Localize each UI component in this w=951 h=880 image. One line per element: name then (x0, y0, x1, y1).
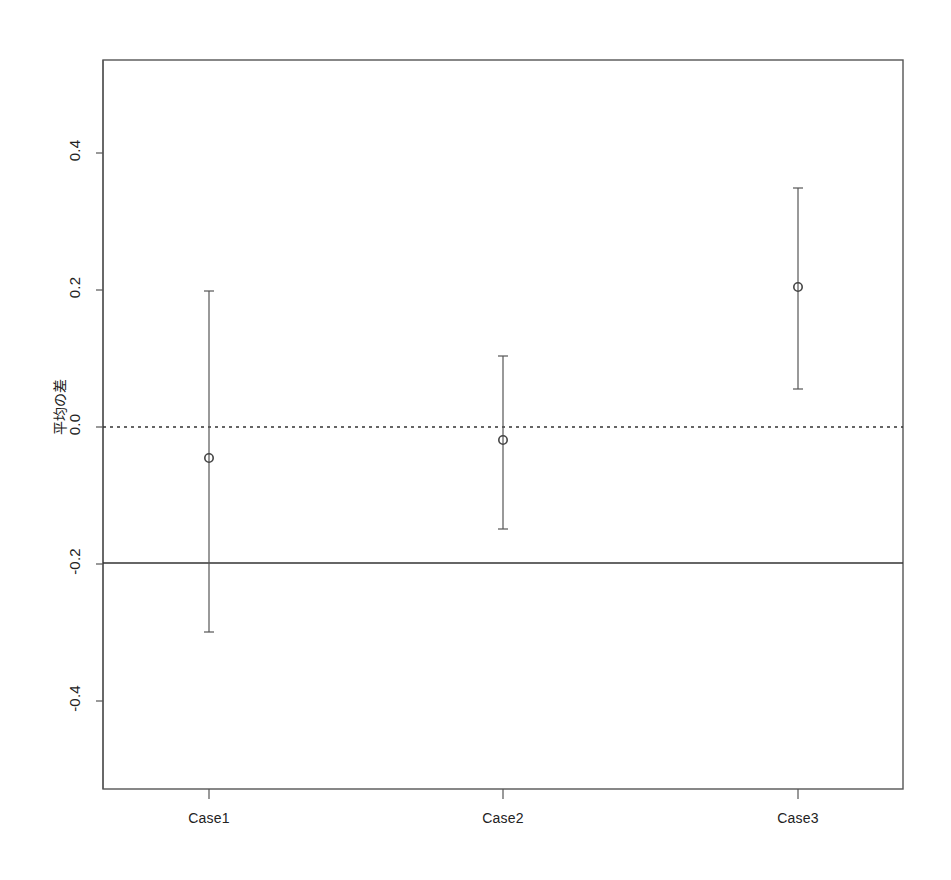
chart-canvas: 0.4 0.2 0.0 -0.2 -0.4 平均の差 Case1 Case2 C… (0, 0, 951, 880)
y-tick-label--0.2: -0.2 (66, 540, 83, 584)
y-axis-title: 平均の差 (49, 367, 69, 447)
x-axis-label-case3: Case3 (748, 810, 848, 826)
y-tick-label-0.4: 0.4 (66, 129, 83, 173)
x-axis-label-case1: Case1 (159, 810, 259, 826)
errorbar-case3 (793, 188, 803, 389)
x-axis-label-case2: Case2 (453, 810, 553, 826)
errorbar-case2 (498, 356, 508, 529)
x-axis-ticks (209, 789, 798, 799)
y-tick-label--0.4: -0.4 (66, 677, 83, 721)
y-tick-label-0.2: 0.2 (66, 266, 83, 310)
y-axis-ticks (96, 153, 103, 701)
confidence-interval-plot (0, 0, 951, 880)
errorbar-case1 (204, 291, 214, 632)
